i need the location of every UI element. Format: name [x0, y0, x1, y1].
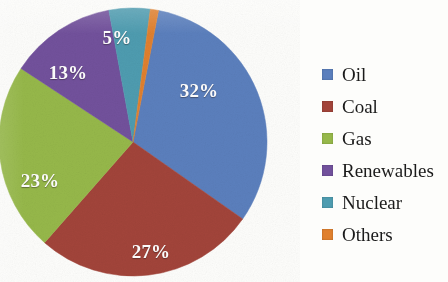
legend-item-others[interactable]: Others — [322, 218, 448, 250]
legend-label-gas: Gas — [342, 129, 372, 148]
legend-label-nuclear: Nuclear — [342, 193, 402, 212]
legend-item-coal[interactable]: Coal — [322, 90, 448, 122]
pie-slices — [0, 8, 267, 276]
legend-swatch-others — [322, 229, 333, 240]
legend-item-gas[interactable]: Gas — [322, 122, 448, 154]
pie-chart-svg — [0, 0, 300, 282]
legend-label-coal: Coal — [342, 97, 378, 116]
legend-swatch-gas — [322, 133, 333, 144]
legend-swatch-renewables — [322, 165, 333, 176]
legend-label-others: Others — [342, 225, 393, 244]
legend-swatch-nuclear — [322, 197, 333, 208]
legend-label-renewables: Renewables — [342, 161, 434, 180]
pie-chart-plot-area: 32% 27% 23% 13% 5% — [0, 0, 300, 282]
legend-swatch-coal — [322, 101, 333, 112]
pie-chart-figure: 32% 27% 23% 13% 5% Oil Coal Gas Renewabl… — [0, 0, 448, 282]
legend-item-renewables[interactable]: Renewables — [322, 154, 448, 186]
legend-item-oil[interactable]: Oil — [322, 58, 448, 90]
legend-swatch-oil — [322, 69, 333, 80]
chart-legend: Oil Coal Gas Renewables Nuclear Others — [322, 58, 448, 250]
legend-label-oil: Oil — [342, 65, 366, 84]
legend-item-nuclear[interactable]: Nuclear — [322, 186, 448, 218]
